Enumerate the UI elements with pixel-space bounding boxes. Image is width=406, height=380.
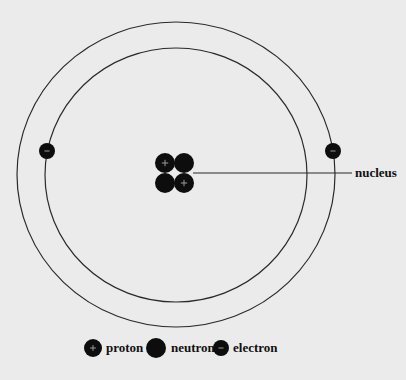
atom-diagram-canvas: nucleus protonneutronelectron (0, 0, 406, 380)
inner-orbit (45, 48, 307, 302)
legend-label-neutron: neutron (171, 340, 216, 355)
atom-diagram: nucleus protonneutronelectron (0, 0, 406, 380)
nucleus-neutron-icon (174, 153, 194, 173)
nucleus: nucleus (155, 153, 397, 193)
proton-icon (84, 339, 102, 357)
nucleus-proton-icon (155, 153, 175, 173)
electron-left-icon (39, 143, 55, 159)
electron-icon (213, 340, 229, 356)
neutron-icon (146, 338, 166, 358)
nucleus-neutron-icon (155, 173, 175, 193)
nucleus-label: nucleus (355, 165, 397, 180)
legend-label-electron: electron (233, 340, 278, 355)
legend-label-proton: proton (106, 340, 144, 355)
legend: protonneutronelectron (84, 338, 278, 358)
electron-right-icon (325, 143, 341, 159)
legend-item-proton: proton (84, 339, 144, 357)
nucleus-proton-icon (174, 173, 194, 193)
orbits-group (17, 22, 335, 327)
legend-item-neutron: neutron (146, 338, 216, 358)
outer-orbit (17, 22, 335, 327)
legend-item-electron: electron (213, 340, 278, 356)
